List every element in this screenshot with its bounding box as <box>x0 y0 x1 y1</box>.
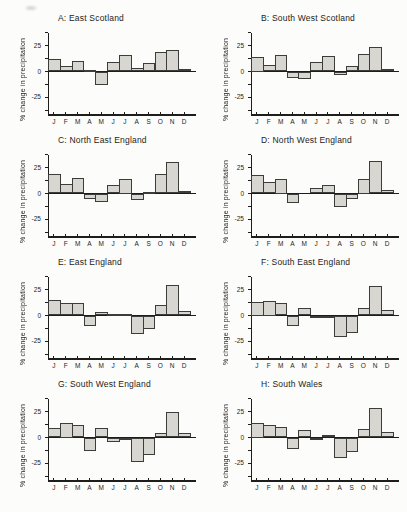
x-axis-tick <box>280 478 281 481</box>
month-label-9: O <box>155 362 167 370</box>
month-label-2: M <box>275 240 287 248</box>
x-axis-tick <box>89 478 90 481</box>
y-axis-tick <box>248 206 252 207</box>
x-axis-tick <box>375 478 376 481</box>
panel-south-wales: % change in precipitation H: South Wales… <box>203 374 407 496</box>
y-tick-label: -25 <box>222 337 244 345</box>
x-axis-tick <box>160 234 161 237</box>
x-axis-tick <box>316 112 317 115</box>
month-label-10: N <box>166 118 178 126</box>
x-axis-tick <box>339 234 340 237</box>
y-axis-tick <box>248 398 252 399</box>
month-label-4: M <box>95 362 107 370</box>
month-label-2: M <box>275 118 287 126</box>
month-label-3: A <box>287 118 299 126</box>
month-label-8: S <box>143 362 155 370</box>
x-axis-tick <box>292 478 293 481</box>
x-axis-tick <box>148 234 149 237</box>
x-axis-tick <box>89 356 90 359</box>
panel-south-east-england: % change in precipitation F: South East … <box>203 252 407 374</box>
y-axis-tick <box>248 450 252 451</box>
x-axis-tick <box>124 356 125 359</box>
x-axis-tick <box>184 234 185 237</box>
bar-s-8 <box>346 438 359 453</box>
x-axis-tick <box>363 478 364 481</box>
panel-title: C: North East England <box>58 135 147 145</box>
month-label-9: O <box>155 240 167 248</box>
x-axis-tick <box>65 112 66 115</box>
month-label-0: J <box>48 118 60 126</box>
panel-north-east-england: % change in precipitation C: North East … <box>0 130 203 252</box>
x-axis-tick <box>160 356 161 359</box>
bar-m-2 <box>275 55 288 72</box>
y-axis-line <box>251 155 252 237</box>
month-label-5: J <box>310 240 322 248</box>
month-label-2: M <box>72 240 84 248</box>
y-tick-label: 0 <box>19 190 41 198</box>
month-label-3: A <box>84 484 96 492</box>
plot-area-south-west-england: 250-25JFMAMJJASOND <box>48 396 196 481</box>
month-label-0: J <box>251 118 263 126</box>
y-axis-tick <box>45 84 49 85</box>
bar-a-7 <box>131 194 144 200</box>
x-axis-tick <box>375 356 376 359</box>
x-axis-tick <box>136 234 137 237</box>
month-label-6: J <box>322 484 334 492</box>
month-label-10: N <box>166 240 178 248</box>
month-label-11: D <box>381 484 393 492</box>
bar-n-10 <box>369 47 382 72</box>
plot-area-east-scotland: 250-25JFMAMJJASOND <box>48 30 196 115</box>
bar-n-10 <box>166 50 179 72</box>
y-tick-label: 0 <box>222 434 244 442</box>
x-axis-tick <box>351 478 352 481</box>
x-axis-line <box>48 114 196 115</box>
month-label-9: O <box>358 362 370 370</box>
month-label-5: J <box>310 118 322 126</box>
month-label-2: M <box>275 362 287 370</box>
x-axis-line <box>251 236 399 237</box>
y-tick-label: -25 <box>222 215 244 223</box>
x-axis-tick <box>256 234 257 237</box>
month-label-10: N <box>369 362 381 370</box>
x-axis-tick <box>172 478 173 481</box>
x-axis-tick <box>53 112 54 115</box>
month-label-6: J <box>322 240 334 248</box>
bar-d-11 <box>178 191 191 193</box>
plot-area-north-west-england: 250-25JFMAMJJASOND <box>251 152 399 237</box>
y-axis-tick <box>45 289 49 290</box>
bar-a-3 <box>84 438 97 452</box>
y-axis-tick <box>45 463 49 464</box>
x-axis-tick <box>292 112 293 115</box>
bar-j-5 <box>310 438 323 440</box>
y-tick-label: 25 <box>222 42 244 50</box>
month-label-4: M <box>95 484 107 492</box>
month-label-11: D <box>178 362 190 370</box>
x-axis-tick <box>184 112 185 115</box>
x-axis-tick <box>160 112 161 115</box>
y-tick-label: 25 <box>222 286 244 294</box>
y-axis-tick <box>248 154 252 155</box>
x-axis-tick <box>101 356 102 359</box>
x-axis-tick <box>77 112 78 115</box>
x-axis-tick <box>77 234 78 237</box>
x-axis-tick <box>316 234 317 237</box>
bar-m-2 <box>275 179 288 194</box>
bar-j-6 <box>322 185 335 193</box>
x-axis-tick <box>387 234 388 237</box>
y-tick-label: 25 <box>19 408 41 416</box>
x-axis-tick <box>53 356 54 359</box>
y-axis-tick <box>45 32 49 33</box>
month-label-9: O <box>358 118 370 126</box>
x-axis-tick <box>184 356 185 359</box>
bar-d-11 <box>178 311 191 315</box>
y-tick-label: 0 <box>222 68 244 76</box>
x-axis-tick <box>101 478 102 481</box>
bar-n-10 <box>166 162 179 193</box>
x-axis-tick <box>53 234 54 237</box>
panel-title: D: North West England <box>261 135 352 145</box>
x-axis-tick <box>172 112 173 115</box>
y-axis-tick <box>248 219 252 220</box>
month-label-8: S <box>143 118 155 126</box>
month-label-0: J <box>251 240 263 248</box>
month-label-1: F <box>263 484 275 492</box>
